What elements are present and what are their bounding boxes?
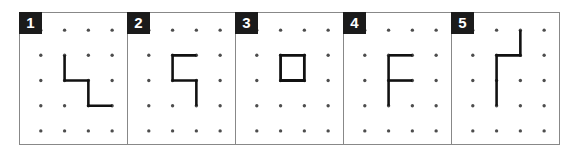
panel-number-badge-2: 2 xyxy=(127,12,150,34)
panel-3-stroke xyxy=(281,55,305,80)
panel-3[interactable]: 3 xyxy=(236,13,344,144)
dot-grid-5 xyxy=(471,28,546,132)
panel-number-badge-3: 3 xyxy=(235,12,258,34)
panel-2[interactable]: 2 xyxy=(128,13,236,144)
figure-root: 1 xyxy=(0,0,588,162)
panel-1[interactable]: 1 xyxy=(20,13,128,144)
panel-2-stroke xyxy=(173,55,197,105)
panel-4[interactable]: 4 xyxy=(344,13,452,144)
panel-1-stroke xyxy=(65,55,113,105)
panel-5[interactable]: 5 xyxy=(452,13,559,144)
panel-strip: 1 xyxy=(19,12,560,145)
panel-number-badge-4: 4 xyxy=(343,12,366,34)
panel-number-badge-1: 1 xyxy=(19,12,42,34)
panel-number-badge-5: 5 xyxy=(451,12,474,34)
panel-5-stroke xyxy=(497,30,521,106)
